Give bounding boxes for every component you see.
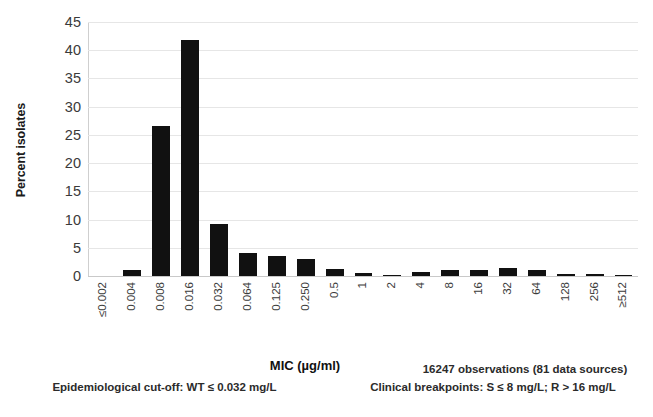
x-axis-tick: 0.250 — [291, 280, 320, 346]
x-axis-tick: 256 — [580, 280, 609, 346]
x-axis-tick: 0.004 — [118, 280, 147, 346]
bar-slot — [465, 22, 494, 276]
bar-slot — [349, 22, 378, 276]
bar-slot — [609, 22, 638, 276]
x-axis-tick-label: 0.004 — [127, 282, 139, 311]
mic-distribution-chart: Percent isolates 051015202530354045 ≤0.0… — [0, 0, 653, 417]
bar-slot — [378, 22, 407, 276]
bar-slot — [522, 22, 551, 276]
x-axis-tick-label: 0.5 — [329, 282, 341, 298]
bar — [470, 270, 488, 276]
x-axis-tick-label: 0.125 — [271, 282, 283, 311]
y-axis-tick-label: 0 — [73, 269, 81, 284]
x-axis-tick: 0.5 — [320, 280, 349, 346]
y-axis-tick-label: 30 — [65, 99, 81, 114]
bar — [181, 40, 199, 276]
bar — [152, 126, 170, 276]
x-axis-tick: 1 — [349, 280, 378, 346]
x-axis-tick-labels: ≤0.0020.0040.0080.0160.0320.0640.1250.25… — [89, 280, 638, 346]
bar-series — [89, 22, 638, 276]
gridline — [88, 276, 638, 277]
x-axis-tick: 0.008 — [147, 280, 176, 346]
x-axis-tick: 16 — [465, 280, 494, 346]
bar-slot — [118, 22, 147, 276]
x-axis-tick-label: 0.250 — [300, 282, 312, 311]
bar — [412, 272, 430, 276]
bar — [210, 224, 228, 276]
y-axis-title-text: Percent isolates — [14, 103, 28, 197]
bar-slot — [320, 22, 349, 276]
x-axis-tick: 2 — [378, 280, 407, 346]
bar — [355, 273, 373, 276]
bar — [326, 269, 344, 276]
x-axis-tick-label: 0.008 — [155, 282, 167, 311]
bar — [499, 268, 517, 276]
bar-slot — [580, 22, 609, 276]
bar — [239, 253, 257, 276]
bar-slot — [89, 22, 118, 276]
x-axis-tick-label: 256 — [589, 282, 601, 301]
bar — [557, 274, 575, 276]
x-axis-tick-label: 64 — [531, 282, 543, 295]
x-axis-tick: 0.016 — [176, 280, 205, 346]
x-axis-tick: 8 — [436, 280, 465, 346]
bar — [383, 275, 401, 276]
bar — [615, 275, 633, 276]
bar — [123, 270, 141, 276]
bar-slot — [407, 22, 436, 276]
x-axis-tick-label: 0.016 — [184, 282, 196, 311]
bar-slot — [262, 22, 291, 276]
y-axis-tick-label: 15 — [65, 184, 81, 199]
x-axis-tick-label: 128 — [560, 282, 572, 301]
x-axis-tick-label: 0.032 — [213, 282, 225, 311]
x-axis-tick-label: ≥512 — [618, 282, 630, 308]
x-axis-tick: 0.064 — [233, 280, 262, 346]
x-axis-tick: 128 — [551, 280, 580, 346]
bar — [586, 274, 604, 276]
x-axis-tick: 0.032 — [205, 280, 234, 346]
x-axis-tick: 64 — [522, 280, 551, 346]
x-axis-tick: 32 — [493, 280, 522, 346]
y-axis-tick-label: 35 — [65, 71, 81, 86]
x-axis-title: MIC (µg/ml) — [220, 358, 390, 373]
x-axis-tick-label: 0.064 — [242, 282, 254, 311]
x-axis-tick: ≤0.002 — [89, 280, 118, 346]
x-axis-tick: 0.125 — [262, 280, 291, 346]
bar-slot — [205, 22, 234, 276]
x-axis-tick-label: 1 — [358, 282, 370, 288]
bar-slot — [291, 22, 320, 276]
x-axis-tick: 4 — [407, 280, 436, 346]
y-axis-tick-label: 40 — [65, 43, 81, 58]
x-axis-tick-label: ≤0.002 — [98, 282, 110, 317]
bar-slot — [436, 22, 465, 276]
bar-slot — [147, 22, 176, 276]
x-axis-tick: ≥512 — [609, 280, 638, 346]
y-axis-title: Percent isolates — [10, 70, 32, 230]
y-axis-tick-label: 20 — [65, 156, 81, 171]
bar — [441, 270, 459, 276]
bar — [297, 259, 315, 276]
y-axis-tick-label: 25 — [65, 128, 81, 143]
x-axis-tick-label: 4 — [415, 282, 427, 288]
x-axis-tick-label: 8 — [444, 282, 456, 288]
plot-area: 051015202530354045 — [88, 22, 638, 276]
bar-slot — [176, 22, 205, 276]
bar — [268, 256, 286, 276]
bar-slot — [551, 22, 580, 276]
y-axis-tick-label: 10 — [65, 212, 81, 227]
y-axis-tick-label: 45 — [65, 15, 81, 30]
x-axis-tick-label: 2 — [387, 282, 399, 288]
y-axis-tick-label: 5 — [73, 241, 81, 256]
epidemiological-cutoff-note: Epidemiological cut-off: WT ≤ 0.032 mg/L — [12, 381, 317, 393]
bar-slot — [233, 22, 262, 276]
clinical-breakpoints-note: Clinical breakpoints: S ≤ 8 mg/L; R > 16… — [336, 381, 650, 393]
x-axis-tick-label: 32 — [502, 282, 514, 295]
observations-note: 16247 observations (81 data sources) — [400, 363, 650, 375]
x-axis-tick-label: 16 — [473, 282, 485, 295]
bar — [528, 270, 546, 276]
bar-slot — [493, 22, 522, 276]
